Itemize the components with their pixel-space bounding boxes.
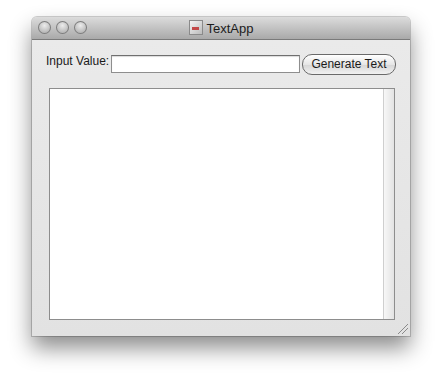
window-title: TextApp <box>32 20 410 36</box>
title-bar[interactable]: TextApp <box>32 17 410 40</box>
output-text-area[interactable] <box>49 88 395 320</box>
app-window: TextApp Input Value: Generate Text <box>32 17 410 336</box>
app-document-icon <box>189 20 203 35</box>
window-title-text: TextApp <box>207 21 254 36</box>
vertical-scrollbar[interactable] <box>383 89 394 319</box>
resize-grip-icon[interactable] <box>398 324 408 334</box>
input-value-field[interactable] <box>111 55 300 73</box>
window-content: Input Value: Generate Text <box>32 40 410 336</box>
generate-text-button[interactable]: Generate Text <box>302 54 396 75</box>
input-value-label: Input Value: <box>46 54 109 68</box>
